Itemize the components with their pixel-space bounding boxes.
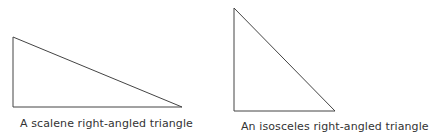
isosceles-triangle-caption: An isosceles right-angled triangle bbox=[241, 120, 429, 133]
isosceles-triangle-shape bbox=[234, 8, 335, 111]
scalene-triangle-caption: A scalene right-angled triangle bbox=[20, 117, 193, 130]
scalene-triangle-shape bbox=[13, 37, 182, 107]
